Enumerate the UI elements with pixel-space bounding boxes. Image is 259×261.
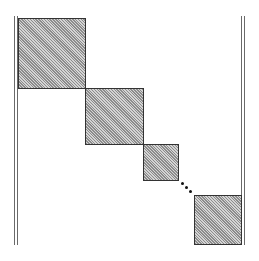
- ellipsis-dot-3: [189, 190, 192, 193]
- ellipsis-dot-1: [181, 182, 184, 185]
- ellipsis-dot-2: [185, 186, 188, 189]
- diagonal-block-4: [194, 195, 242, 245]
- block-diagonal-matrix-diagram: [0, 0, 259, 261]
- diagonal-block-2: [85, 88, 144, 145]
- right-delimiter-line-outer: [244, 16, 245, 245]
- diagonal-block-1: [18, 18, 86, 89]
- left-delimiter-line-outer: [14, 16, 15, 245]
- diagonal-block-3: [143, 144, 179, 181]
